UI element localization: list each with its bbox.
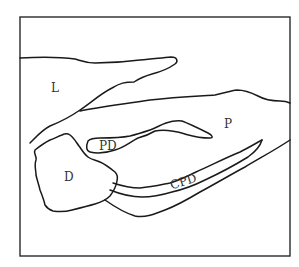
cpd-lower-wall (110, 140, 262, 197)
pancreas-lower-boundary (105, 140, 290, 217)
pancreas-upper-boundary (80, 90, 290, 111)
anatomical-diagram: L P PD D CPD (0, 0, 299, 267)
label-duodenum: D (64, 170, 74, 184)
diagram-frame (20, 17, 290, 256)
label-liver: L (51, 81, 59, 95)
label-pancreatic-duct: PD (99, 139, 117, 153)
label-pancreas: P (224, 117, 232, 131)
